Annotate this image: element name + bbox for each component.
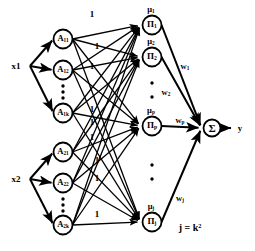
ellipsis-dot: [61, 197, 64, 200]
unity-weight-label-1: 1: [95, 42, 100, 51]
unity-weight-label-6: 1: [95, 156, 100, 165]
output-weight-label-p: wp: [175, 116, 184, 125]
output-weight-label-j: wj: [176, 194, 184, 203]
product-node-label-1: Π1: [147, 20, 157, 30]
ellipsis-dot: [150, 163, 153, 166]
membership-node-label-A2k: A2k: [57, 220, 69, 229]
ellipsis-dot: [61, 84, 64, 87]
ellipsis-dot: [150, 95, 153, 98]
product-node-label-j: Πj: [148, 217, 157, 227]
rule-count-annotation: j = k2: [179, 223, 202, 233]
product-to-sum-edge: [162, 131, 201, 222]
input-to-membership-edge: [30, 179, 52, 183]
membership-node-label-A22: A22: [57, 178, 68, 187]
membership-degree-label-p: μp: [147, 106, 155, 115]
membership-degree-label-j: μj: [148, 202, 155, 211]
unity-weight-label-8: 1: [95, 210, 100, 219]
input-label-x2: x2: [12, 175, 21, 184]
product-node-label-p: Πp: [147, 121, 157, 131]
membership-node-label-A11: A11: [57, 34, 68, 43]
membership-to-product-edge: [73, 27, 139, 113]
unity-weight-label-7: 1: [95, 174, 100, 183]
membership-to-product-edge: [73, 28, 140, 225]
output-weight-label-1: w1: [181, 62, 190, 71]
ellipsis-dot: [150, 177, 153, 180]
figure-canvas: x1x2A11A12A1kA21A22A2k111111111Π1μ1Π2μ2Π…: [0, 0, 255, 251]
input-to-membership-edge: [30, 41, 52, 66]
unity-weight-label-0: 1: [90, 10, 95, 19]
ellipsis-dot: [61, 203, 64, 206]
product-to-sum-edge: [162, 126, 199, 128]
membership-node-label-A1k: A1k: [57, 108, 69, 117]
input-to-membership-edge: [30, 66, 52, 70]
input-to-membership-edge: [30, 179, 53, 223]
product-to-sum-edge: [162, 25, 201, 125]
membership-to-product-edge: [73, 128, 139, 183]
unity-weight-label-3: 1: [90, 105, 95, 114]
membership-to-product-edge: [73, 26, 138, 39]
input-to-membership-edge: [30, 154, 52, 179]
summation-node-label: Σ: [208, 123, 215, 134]
membership-node-label-A12: A12: [57, 65, 68, 74]
ellipsis-dot: [61, 96, 64, 99]
output-label: y: [238, 124, 243, 133]
input-label-x1: x1: [12, 62, 21, 71]
unity-weight-label-2: 1: [90, 62, 95, 71]
product-node-label-2: Π2: [147, 52, 157, 62]
unity-weight-label-5: 1: [90, 133, 95, 142]
ellipsis-dot: [61, 209, 64, 212]
membership-to-product-edge: [73, 70, 139, 124]
output-weight-label-2: w2: [162, 88, 171, 97]
ellipsis-dot: [150, 81, 153, 84]
membership-to-product-edge: [73, 28, 140, 152]
membership-node-label-A21: A21: [57, 147, 68, 156]
input-to-membership-edge: [30, 66, 53, 111]
diagram-vector-layer: [0, 0, 255, 251]
membership-to-product-edge: [73, 222, 138, 225]
unity-weight-label-4: 1: [90, 118, 95, 127]
membership-degree-label-2: μ2: [147, 37, 154, 46]
membership-degree-label-1: μ1: [147, 5, 154, 14]
ellipsis-dot: [61, 90, 64, 93]
